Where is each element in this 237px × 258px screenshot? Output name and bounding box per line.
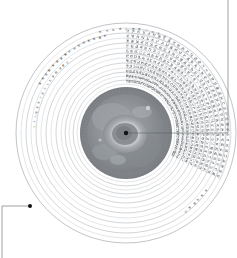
arc-glyph: 行 (183, 209, 188, 214)
glyph-cell (151, 65, 154, 68)
glyph-cell (188, 112, 191, 115)
glyph-cell (149, 69, 152, 72)
glyph-cell (187, 87, 191, 91)
glyph-cell (130, 60, 133, 63)
glyph-cell (126, 50, 129, 53)
glyph-cell (168, 67, 171, 70)
glyph-cell (165, 197, 168, 200)
glyph-cell (227, 134, 230, 137)
glyph-cell (206, 80, 209, 83)
glyph-cell (197, 105, 200, 108)
glyph-cell (189, 150, 192, 153)
glyph-cell (186, 105, 189, 108)
glyph-cell (217, 133, 220, 136)
glyph-cell (191, 122, 194, 125)
glyph-cell (203, 154, 206, 157)
glyph-cell (134, 55, 137, 58)
glyph-cell (194, 151, 197, 154)
glyph-cell (194, 164, 197, 167)
glyph-cell (212, 184, 215, 187)
glyph-cell (195, 148, 198, 151)
glyph-cell (201, 103, 204, 106)
glyph-cell (192, 155, 195, 158)
glyph-cell (191, 140, 194, 143)
glyph-cell (140, 66, 143, 69)
glyph-cell (216, 143, 219, 146)
glyph-cell (212, 172, 215, 175)
glyph-cell (164, 65, 167, 68)
glyph-cell (122, 50, 125, 53)
glyph-cell (214, 94, 217, 97)
glyph-cell (185, 117, 188, 120)
glyph-cell (204, 150, 207, 153)
glyph-cell (182, 166, 185, 169)
arc-glyph: 奎 (44, 72, 49, 77)
glyph-cell (202, 93, 205, 96)
glyph-cell (198, 95, 201, 98)
glyph-cell (129, 65, 132, 68)
glyph-cell (207, 91, 210, 94)
glyph-cell (212, 105, 215, 108)
glyph-cell (159, 86, 163, 90)
glyph-cell (187, 96, 190, 99)
glyph-cell (146, 79, 149, 82)
glyph-cell (121, 35, 124, 37)
glyph-cell (191, 158, 194, 161)
glyph-cell (197, 133, 200, 136)
glyph-cell (161, 70, 164, 73)
glyph-cell (202, 133, 205, 136)
glyph-cell (192, 94, 195, 97)
arc-glyph: 四 (55, 70, 59, 74)
glyph-cell (209, 84, 212, 87)
glyph-cell (172, 52, 175, 55)
glyph-cell (192, 177, 196, 181)
arc-glyph: 亢 (105, 28, 109, 33)
glyph-cell (225, 149, 228, 152)
glyph-cell (221, 138, 224, 141)
glyph-cell (174, 116, 177, 119)
center-marker[interactable] (124, 131, 128, 135)
glyph-cell (159, 80, 163, 84)
glyph-cell (157, 190, 160, 193)
glyph-cell (217, 103, 220, 106)
glyph-cell (141, 36, 144, 39)
glyph-cell (126, 65, 129, 68)
arc-glyph: 婁 (47, 67, 52, 72)
glyph-cell (180, 169, 184, 173)
glyph-cell (208, 155, 211, 158)
glyph-cell (198, 153, 201, 156)
glyph-cell (135, 45, 138, 48)
arc-glyph: 歲 (203, 188, 208, 193)
glyph-cell (173, 101, 176, 104)
glyph-cell (189, 162, 192, 165)
glyph-cell (222, 133, 224, 136)
glyph-cell (207, 160, 210, 163)
glyph-cell (222, 160, 225, 163)
glyph-cell (220, 97, 223, 100)
callout-marker[interactable] (28, 204, 32, 208)
glyph-cell (146, 58, 149, 61)
glyph-cell (211, 100, 214, 103)
glyph-cell (174, 202, 178, 206)
glyph-cell (206, 120, 209, 123)
glyph-cell (211, 142, 214, 145)
glyph-cell (144, 47, 147, 50)
glyph-cell (144, 62, 147, 65)
glyph-cell (192, 129, 195, 132)
glyph-cell (174, 104, 177, 107)
glyph-cell (197, 170, 200, 173)
glyph-cell (204, 97, 207, 100)
arc-glyph: 八 (34, 115, 38, 119)
glyph-cell (200, 117, 203, 120)
glyph-cell (226, 123, 229, 126)
glyph-cell (138, 56, 141, 59)
glyph-cell (207, 181, 210, 184)
glyph-cell (131, 35, 134, 38)
glyph-cell (193, 78, 196, 81)
arc-glyph: 星 (192, 201, 197, 206)
glyph-cell (217, 129, 220, 132)
glyph-cell (194, 88, 197, 91)
glyph-cell (155, 66, 158, 69)
glyph-cell (200, 162, 203, 165)
glyph-cell (122, 55, 125, 58)
